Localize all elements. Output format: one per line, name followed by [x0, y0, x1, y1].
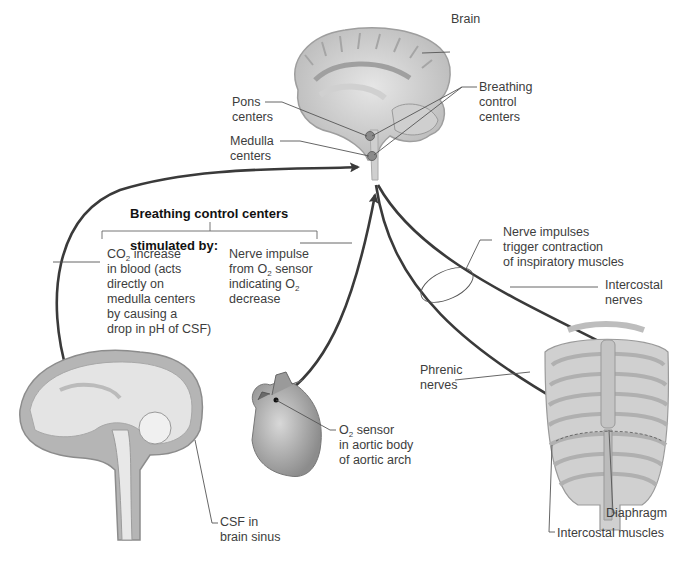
brain-csf-illustration [20, 350, 203, 540]
label-pons-centers: Pons centers [232, 95, 273, 125]
o2-stim-line1: Nerve impulse [229, 247, 309, 261]
label-co2-stimulus: CO2 increase in blood (acts directly on … [107, 247, 211, 337]
label-breathing-control-centers: Breathing control centers [479, 80, 533, 125]
label-medulla-centers: Medulla centers [230, 134, 274, 164]
label-diaphragm: Diaphragm [606, 506, 667, 521]
o2-sensor-prefix: O [339, 423, 349, 437]
ribcage-illustration [545, 324, 668, 530]
o2-stim-line2-prefix: from O [229, 262, 267, 276]
diagram-artwork [0, 0, 693, 564]
heading-line-1: Breathing control centers [130, 206, 288, 221]
o2-stim-line3-sub: 2 [295, 284, 299, 293]
label-brain: Brain [451, 12, 480, 27]
label-nerve-impulses: Nerve impulses trigger contraction of in… [503, 225, 624, 270]
label-phrenic-nerves: Phrenic nerves [420, 363, 462, 393]
label-o2-stimulus: Nerve impulse from O2 sensor indicating … [229, 247, 313, 307]
co2-prefix: CO [107, 247, 126, 261]
label-csf: CSF in brain sinus [220, 515, 280, 545]
o2-stim-line4: decrease [229, 292, 280, 306]
o2-stim-line2-rest: sensor [272, 262, 313, 276]
heading-stimulated-by: Breathing control centers stimulated by: [130, 190, 288, 254]
breathing-control-diagram: Brain Breathing control centers Pons cen… [0, 0, 693, 564]
brain-top-illustration [295, 28, 450, 180]
o2-stim-line3-prefix: indicating O [229, 277, 295, 291]
csf-leader [195, 440, 218, 523]
heart-illustration [252, 372, 321, 477]
label-intercostal-nerves: Intercostal nerves [605, 278, 663, 308]
label-o2-sensor: O2 sensor in aortic body of aortic arch [339, 423, 413, 468]
label-intercostal-muscles: Intercostal muscles [557, 526, 664, 541]
